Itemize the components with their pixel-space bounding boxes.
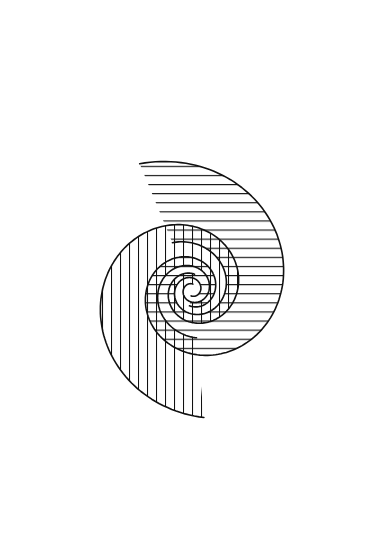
figure-container: Double spiral line-art illustration // p… [0, 0, 386, 560]
double-spiral-illustration: // placeholder, real drawing below [0, 0, 386, 560]
